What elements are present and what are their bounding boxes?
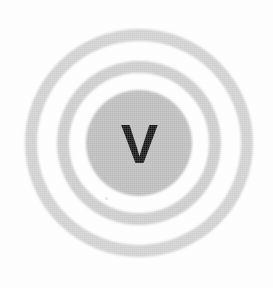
scan-speck-icon [105, 197, 108, 200]
ring-emblem-graphic [0, 0, 273, 288]
image-canvas: V [0, 0, 273, 288]
core-disc [86, 90, 192, 196]
